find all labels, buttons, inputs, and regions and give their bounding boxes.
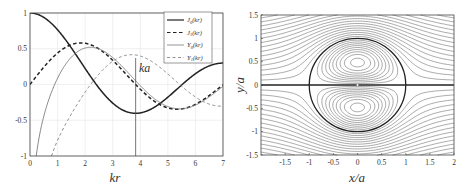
x-tick-label: 3 [111,159,115,168]
x-tick-label: -1.5 [279,158,291,167]
legend: J0(kr)J1(kr)Y0(kr)Y1(kr) [164,12,212,63]
x-tick-label: 0 [356,158,360,167]
y-tick-label: -1 [252,127,258,136]
x-tick-label: 4 [138,159,142,168]
x-tick-label: 1 [56,159,60,168]
x-tick-label: 5 [166,159,170,168]
x-tick-label: 0 [28,159,32,168]
right-y-axis-label: y/a [232,77,247,95]
y-tick-label: 0.5 [249,57,259,66]
x-tick-label: 6 [194,159,198,168]
right-x-axis-label: x/a [348,170,365,185]
y-tick-label: -0.5 [15,116,27,125]
x-tick-label: -1 [306,158,312,167]
x-tick-label: 0.5 [377,158,387,167]
y-tick-label: -0.5 [246,104,258,113]
y-tick-label: 0.5 [18,44,28,53]
y-tick-label: 1.5 [249,11,259,20]
y-tick-label: 0 [23,80,27,89]
y-tick-label: -1 [21,152,27,161]
x-tick-label: 1.5 [425,158,435,167]
ka-annotation: ka [139,61,150,75]
x-tick-label: 1 [404,158,408,167]
y-tick-label: -1.5 [246,151,258,160]
bessel-function-chart: 0123456710.50-0.5-1 kr ka J0(kr)J1(kr)Y0… [0,0,471,192]
x-tick-label: -0.5 [327,158,339,167]
x-tick-label: 2 [83,159,87,168]
streamline-contours [261,15,454,155]
y-tick-label: 1 [23,9,27,18]
left-x-axis-label: kr [110,170,122,185]
x-tick-label: 7 [221,159,225,168]
x-tick-label: 2 [452,158,456,167]
y-tick-label: 1 [254,34,258,43]
y-tick-label: 0 [254,81,258,90]
